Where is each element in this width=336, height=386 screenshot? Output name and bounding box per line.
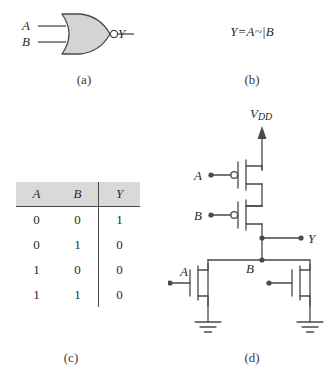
vdd-subscript: DD [258, 111, 272, 122]
gate-input-a-label: A [22, 18, 30, 34]
table-row: 0 1 0 [16, 232, 140, 257]
cell-b: 0 [57, 257, 99, 282]
cell-b: 1 [57, 282, 99, 307]
table-row: 1 1 0 [16, 282, 140, 307]
column-header-b: B [57, 182, 99, 207]
truth-table: A B Y 0 0 1 0 1 0 1 0 0 1 1 [16, 182, 140, 307]
cell-a: 0 [16, 232, 57, 257]
cell-y: 0 [99, 257, 141, 282]
gate-input-b-label: B [22, 34, 30, 50]
cell-a: 0 [16, 207, 57, 233]
gate-output-y-label: Y [118, 26, 125, 42]
cell-a: 1 [16, 282, 57, 307]
schematic-output-y-label: Y [308, 231, 315, 247]
nmos-a-input-label: A [180, 264, 188, 280]
cell-a: 1 [16, 257, 57, 282]
panel-truth-table: A B Y 0 0 1 0 1 0 1 0 0 1 1 [0, 140, 168, 355]
nmos-b-input-label: B [246, 261, 254, 277]
cell-b: 0 [57, 207, 99, 233]
caption-c: (c) [0, 350, 142, 366]
column-header-y: Y [99, 182, 141, 207]
cell-y: 1 [99, 207, 141, 233]
nor-equation-text: Y=A~|B [168, 24, 336, 40]
cell-y: 0 [99, 232, 141, 257]
cmos-nor-drawing [168, 100, 336, 355]
caption-b: (b) [168, 72, 336, 88]
table-row: 0 0 1 [16, 207, 140, 233]
table-header-row: A B Y [16, 182, 140, 207]
vdd-letter: V [250, 106, 258, 121]
vdd-label: VDD [250, 106, 272, 122]
pmos-b-input-label: B [194, 208, 202, 224]
panel-cmos-schematic: VDD A B Y A B [168, 100, 336, 355]
caption-d: (d) [168, 350, 336, 366]
caption-a: (a) [0, 72, 168, 88]
cell-y: 0 [99, 282, 141, 307]
pmos-a-input-label: A [194, 168, 202, 184]
cell-b: 1 [57, 232, 99, 257]
column-header-a: A [16, 182, 57, 207]
table-row: 1 0 0 [16, 257, 140, 282]
